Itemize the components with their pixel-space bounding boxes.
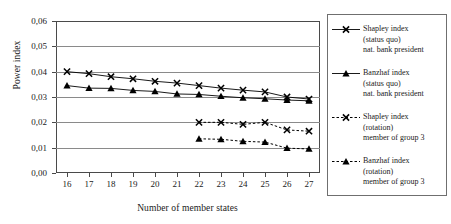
x-tick-label: 16	[57, 180, 77, 189]
legend-label: Banzhaf index(rotation)member of group 3	[363, 156, 447, 188]
series-2	[196, 119, 312, 134]
x-tick-mark	[111, 173, 112, 177]
legend-label-line: Banzhaf index	[363, 156, 447, 167]
x-tick-mark	[155, 173, 156, 177]
y-tick-mark	[52, 173, 56, 174]
x-tick-label: 26	[277, 180, 297, 189]
x-tick-label: 24	[233, 180, 253, 189]
series-line	[67, 86, 309, 101]
legend-label: Banzhaf index(status quo)nat. bank presi…	[363, 68, 447, 100]
y-tick-label: 0,01	[13, 144, 47, 153]
legend-label-line: Shapley index	[363, 24, 447, 35]
y-tick-label: 0,03	[13, 93, 47, 102]
series-0	[64, 69, 312, 103]
y-tick-label: 0,05	[13, 42, 47, 51]
legend-label-line: nat. bank president	[363, 45, 447, 56]
legend-label-line: member of group 3	[363, 177, 447, 188]
x-tick-label: 19	[123, 180, 143, 189]
chart-legend: Shapley index(status quo)nat. bank presi…	[327, 14, 447, 196]
x-tick-mark	[89, 173, 90, 177]
x-tick-label: 22	[189, 180, 209, 189]
data-point-marker-triangle	[195, 135, 202, 141]
legend-label-line: (rotation)	[363, 167, 447, 178]
x-tick-mark	[67, 173, 68, 177]
x-tick-label: 25	[255, 180, 275, 189]
x-tick-label: 20	[145, 180, 165, 189]
legend-label-line: (status quo)	[363, 79, 447, 90]
x-tick-mark	[243, 173, 244, 177]
legend-label: Shapley index(status quo)nat. bank presi…	[363, 24, 447, 56]
legend-label-line: Shapley index	[363, 112, 447, 123]
x-tick-mark	[309, 173, 310, 177]
legend-label: Shapley index(rotation)member of group 3	[363, 112, 447, 144]
legend-label-line: Banzhaf index	[363, 68, 447, 79]
legend-label-line: nat. bank president	[363, 89, 447, 100]
legend-label-line: member of group 3	[363, 133, 447, 144]
data-point-marker-triangle	[63, 82, 70, 88]
x-tick-mark	[221, 173, 222, 177]
plot-area: 0,000,010,020,030,040,050,06 16171819202…	[56, 21, 320, 173]
x-tick-mark	[287, 173, 288, 177]
x-tick-label: 21	[167, 180, 187, 189]
y-tick-label: 0,00	[13, 169, 47, 178]
legend-label-line: (status quo)	[363, 35, 447, 46]
x-axis-title: Number of member states	[55, 203, 320, 213]
data-point-marker-x	[343, 114, 349, 120]
legend-label-line: (rotation)	[363, 123, 447, 134]
x-tick-mark	[265, 173, 266, 177]
y-tick-label: 0,06	[13, 17, 47, 26]
series-3	[195, 135, 312, 152]
y-tick-label: 0,04	[13, 68, 47, 77]
data-series-layer	[56, 21, 320, 173]
y-tick-label: 0,02	[13, 118, 47, 127]
legend-marker-x-icon	[331, 24, 361, 35]
x-tick-label: 18	[101, 180, 121, 189]
legend-marker-triangle-icon	[331, 68, 361, 79]
series-line	[199, 122, 309, 131]
x-tick-mark	[177, 173, 178, 177]
series-line	[199, 139, 309, 149]
x-tick-label: 23	[211, 180, 231, 189]
x-tick-mark	[199, 173, 200, 177]
series-line	[67, 72, 309, 99]
x-tick-label: 27	[299, 180, 319, 189]
series-1	[63, 82, 312, 104]
x-tick-label: 17	[79, 180, 99, 189]
legend-marker-x-icon	[331, 112, 361, 123]
x-tick-mark	[133, 173, 134, 177]
legend-marker-triangle-icon	[331, 156, 361, 167]
chart-figure: Power index Number of member states 0,00…	[0, 0, 451, 224]
